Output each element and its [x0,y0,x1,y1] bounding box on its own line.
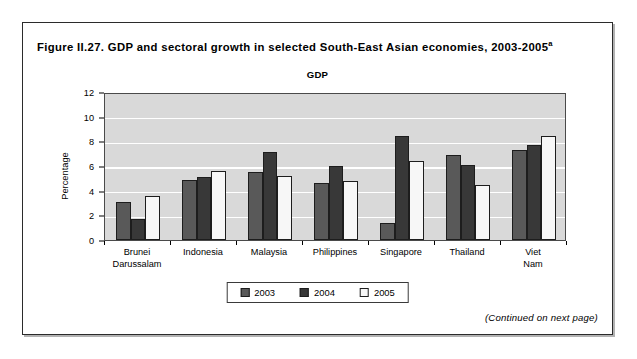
y-tick-label: 4 [89,187,94,197]
x-category-label: Brunei Darussalam [112,247,161,270]
y-tick-label: 8 [89,137,94,147]
x-tick-mark [566,241,567,245]
bar [395,136,410,240]
bar [343,181,358,240]
bar-group [182,94,226,240]
bar [409,161,424,240]
y-tick-label: 6 [89,162,94,172]
bar [475,185,490,241]
legend-swatch-icon [240,288,249,297]
bar [446,155,461,240]
legend-item: 2004 [300,287,335,298]
bar-group [314,94,358,240]
chart-legend: 200320042005 [226,282,409,303]
bar-group [512,94,556,240]
bars-layer [105,94,565,240]
x-tick-mark [104,241,105,245]
bar [116,202,131,240]
x-category-label: Malaysia [251,247,287,259]
bar [131,219,146,240]
legend-item: 2003 [240,287,275,298]
bar [277,176,292,240]
x-tick-mark [500,241,501,245]
bar-group [116,94,160,240]
legend-label: 2003 [254,287,275,298]
bar [329,166,344,240]
legend-item: 2005 [360,287,395,298]
figure-frame: Figure II.27. GDP and sectoral growth in… [22,22,613,335]
bar [145,196,160,240]
chart-subtitle: GDP [23,69,612,80]
plot-area [104,93,566,241]
bar [512,150,527,240]
bar [461,165,476,240]
bar [248,172,263,240]
page-title: Figure II.27. GDP and sectoral growth in… [37,39,553,53]
bar-group [446,94,490,240]
y-tick-label: 0 [89,236,94,246]
bar [197,177,212,240]
x-tick-mark [302,241,303,245]
x-tick-mark [434,241,435,245]
y-tick-label: 12 [84,88,94,98]
continued-note: (Continued on next page) [485,312,598,323]
bar [314,183,329,240]
x-category-label: Thailand [449,247,484,259]
x-category-label: Indonesia [183,247,223,259]
x-axis: Brunei DarussalamIndonesiaMalaysiaPhilip… [104,241,566,275]
legend-swatch-icon [360,288,369,297]
legend-swatch-icon [300,288,309,297]
bar [541,136,556,240]
chart-container: Percentage 024681012 Brunei DarussalamIn… [23,85,614,275]
bar [211,171,226,240]
x-tick-mark [236,241,237,245]
bar [182,180,197,240]
y-axis: 024681012 [23,93,104,241]
bar [263,152,278,240]
legend-label: 2004 [314,287,335,298]
figure-title-text: Figure II.27. GDP and sectoral growth in… [37,41,548,53]
x-category-label: Philippines [313,247,357,259]
bar-group [248,94,292,240]
legend-label: 2005 [374,287,395,298]
bar [527,145,542,240]
figure-title-superscript: a [548,39,553,48]
x-tick-mark [170,241,171,245]
y-tick-label: 2 [89,211,94,221]
x-category-label: Singapore [380,247,422,259]
x-tick-mark [368,241,369,245]
bar-group [380,94,424,240]
x-category-label: Viet Nam [517,247,550,270]
bar [380,223,395,240]
y-tick-label: 10 [84,113,94,123]
